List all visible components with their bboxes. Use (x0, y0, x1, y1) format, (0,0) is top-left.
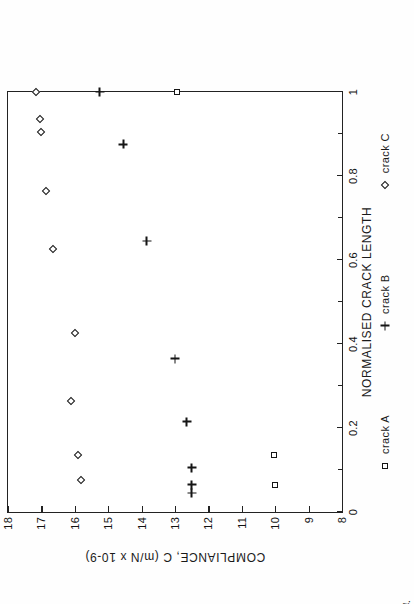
diamond-marker-icon (380, 180, 390, 190)
data-point-crack-b (187, 480, 196, 489)
y-axis-tick (8, 507, 9, 513)
data-point-crack-b (187, 489, 196, 498)
x-axis-tick-label: 0.2 (347, 420, 359, 436)
x-axis-minor-tick (338, 301, 343, 302)
x-axis-tick-label: 0 (347, 509, 359, 515)
x-axis-tick-label: 0.4 (347, 336, 359, 352)
data-point-crack-a (174, 89, 180, 95)
y-axis-tick-label: 18 (2, 517, 14, 530)
y-axis-title: COMPLIANCE, C (m/N x 10-9) (7, 550, 343, 564)
y-axis-tick-label: 16 (69, 517, 81, 530)
y-axis-tick (108, 507, 109, 513)
y-axis-tick (142, 507, 143, 513)
y-axis-tick (41, 507, 42, 513)
x-axis-tick (337, 259, 343, 260)
data-point-crack-b (142, 237, 151, 246)
data-point-crack-c (32, 88, 40, 96)
x-axis-tick-label: 1 (347, 89, 359, 95)
data-point-crack-c (35, 115, 43, 123)
plus-marker-icon (380, 321, 390, 331)
y-axis-tick (75, 507, 76, 513)
x-axis-tick-label: 0.6 (347, 252, 359, 268)
y-axis-tick-label: 15 (102, 517, 114, 530)
y-axis-tick-label: 11 (236, 517, 248, 529)
data-point-crack-b (171, 354, 180, 363)
legend-label: crack B (379, 274, 391, 313)
data-point-crack-a (272, 482, 278, 488)
y-axis-tick-label: 13 (169, 517, 181, 530)
legend-label: crack C (379, 133, 391, 173)
y-axis-tick-label: 14 (136, 517, 148, 530)
data-point-crack-b (182, 417, 191, 426)
x-axis-minor-tick (338, 385, 343, 386)
figure-caption-text: Typical plot of specimen compliance agai… (401, 600, 412, 604)
y-axis-tick-label: 12 (202, 517, 214, 530)
x-axis-tick-label: 0.8 (347, 168, 359, 184)
data-point-crack-a (271, 452, 277, 458)
y-axis-tick (208, 507, 209, 513)
y-axis-tick-label: 17 (35, 517, 47, 530)
y-axis-tick-label: 9 (303, 517, 315, 523)
x-axis-title: NORMALISED CRACK LENGTH (360, 91, 374, 513)
x-axis-tick (337, 91, 343, 92)
data-point-crack-c (71, 329, 79, 337)
x-axis-tick (337, 427, 343, 428)
data-point-crack-c (77, 476, 85, 484)
y-axis-tick (342, 507, 343, 513)
data-point-crack-c (37, 128, 45, 136)
y-axis-tick-label: 8 (336, 517, 348, 523)
x-axis-minor-tick (338, 133, 343, 134)
figure-caption: FIG. 5—Typical plot of specimen complian… (401, 600, 412, 604)
data-point-crack-c (67, 396, 75, 404)
data-point-crack-b (119, 140, 128, 149)
y-axis-tick (275, 507, 276, 513)
figure-container: 00.20.40.60.8189101112131415161718 NORMA… (0, 0, 414, 604)
legend-label: crack A (379, 415, 391, 454)
data-point-crack-b (95, 88, 104, 97)
square-marker-icon (380, 461, 390, 471)
data-point-crack-c (74, 451, 82, 459)
plot-area: 00.20.40.60.8189101112131415161718 (7, 91, 343, 513)
data-point-crack-b (187, 463, 196, 472)
x-axis-tick (337, 343, 343, 344)
chart-legend: crack Acrack Bcrack C (379, 91, 391, 513)
y-axis-tick (309, 507, 310, 513)
x-axis-minor-tick (338, 217, 343, 218)
data-point-crack-c (49, 245, 57, 253)
y-axis-tick (175, 507, 176, 513)
legend-item-crack-c: crack C (379, 133, 391, 190)
y-axis-tick-label: 10 (269, 517, 281, 530)
legend-item-crack-a: crack A (379, 415, 391, 471)
data-point-crack-c (42, 186, 50, 194)
x-axis-minor-tick (338, 469, 343, 470)
legend-item-crack-b: crack B (379, 274, 391, 330)
x-axis-tick (337, 175, 343, 176)
y-axis-tick (242, 507, 243, 513)
